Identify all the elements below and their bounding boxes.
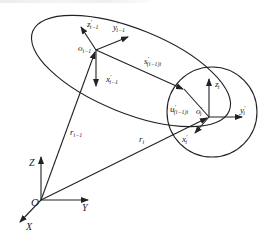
label-curr-x: x′i bbox=[181, 134, 188, 145]
frame-prev-axes bbox=[81, 27, 128, 86]
label-global-x: X bbox=[25, 221, 33, 232]
label-u: u′(i−1)i bbox=[170, 104, 189, 116]
label-r-prev: ri−1 bbox=[70, 127, 82, 138]
kinematics-diagram: O Z Y X oi−1 z′i−1 y′i−1 x′i−1 o′i z′i y… bbox=[0, 0, 272, 243]
label-r-curr: ri bbox=[139, 134, 145, 145]
label-prev-z: z′i−1 bbox=[86, 19, 99, 30]
label-prev-origin: oi−1 bbox=[78, 43, 91, 54]
label-curr-origin: o′i bbox=[196, 106, 203, 117]
label-curr-y: y′i bbox=[239, 105, 246, 116]
label-s: s′(i−1)i bbox=[144, 56, 162, 68]
label-prev-x: x′i−1 bbox=[105, 74, 118, 85]
label-global-y: Y bbox=[82, 202, 89, 213]
label-global-origin: O bbox=[31, 196, 39, 208]
prev-y-axis bbox=[96, 37, 128, 50]
prev-z-axis bbox=[81, 27, 96, 50]
label-curr-z: z′i bbox=[214, 79, 221, 90]
label-global-z: Z bbox=[29, 157, 35, 168]
body-ellipse bbox=[17, 0, 245, 150]
